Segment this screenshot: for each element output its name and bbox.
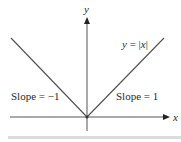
- function-label-eq: = |: [127, 38, 141, 50]
- left-branch-line: [11, 38, 87, 117]
- function-label: y = |x|: [121, 38, 148, 50]
- slope-right-annotation: Slope = 1: [116, 90, 158, 102]
- x-axis-label: x: [172, 111, 178, 123]
- bottom-divider: [8, 136, 181, 139]
- origin-point: [86, 116, 89, 119]
- x-axis-arrow-icon: [163, 114, 170, 120]
- abs-value-graph: y x y = |x| Slope = −1 Slope = 1: [0, 0, 181, 142]
- slope-left-annotation: Slope = −1: [11, 90, 59, 102]
- y-axis-label: y: [83, 3, 89, 15]
- y-axis-arrow-icon: [84, 17, 90, 24]
